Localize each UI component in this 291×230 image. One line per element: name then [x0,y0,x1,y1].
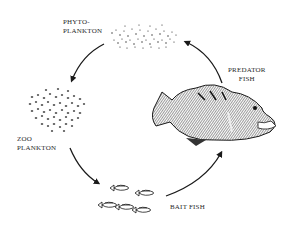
arrow-bait-to-predator [166,153,221,196]
phytoplankton-dots-icon [111,24,176,48]
zooplankton-label-line-1: ZOO [17,135,56,144]
diagram-graphics [0,0,291,230]
zooplankton-label-line-2: PLANKTON [17,144,56,153]
predator-fish-icon [152,85,276,146]
baitfish-school-icon [98,185,154,213]
phytoplankton-label-line-1: PHYTO- [63,18,102,27]
predator-label-line-1: PREDATOR [228,66,266,75]
food-chain-diagram: PHYTO- PLANKTON ZOO PLANKTON BAIT FISH P… [0,0,291,230]
label-zooplankton: ZOO PLANKTON [17,135,56,153]
baitfish-label: BAIT FISH [170,203,205,212]
arrow-predator-to-phyto [186,42,222,83]
arrow-phyto-to-zoo [72,44,104,80]
zooplankton-cluster-icon [29,88,86,132]
phytoplankton-label-line-2: PLANKTON [63,27,102,36]
label-phytoplankton: PHYTO- PLANKTON [63,18,102,36]
arrow-zoo-to-bait [70,148,98,183]
label-predator-fish: PREDATOR FISH [228,66,266,84]
label-baitfish: BAIT FISH [170,203,205,212]
predator-label-line-2: FISH [228,75,266,84]
